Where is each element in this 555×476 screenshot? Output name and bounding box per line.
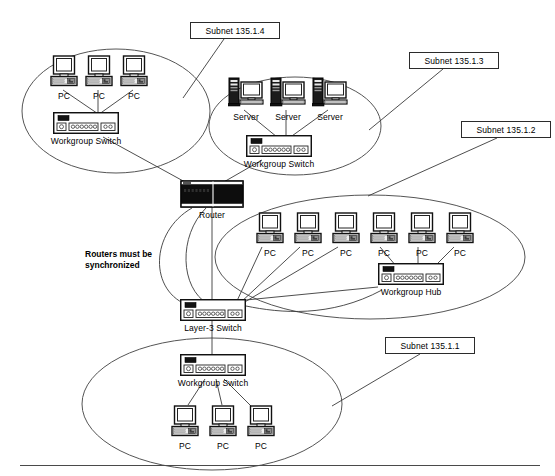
footer-divider	[20, 465, 540, 466]
switch-icon-sw-b[interactable]	[246, 135, 312, 161]
device-label-pc-a3: PC	[128, 91, 140, 101]
switch-icon-sw-a[interactable]	[53, 112, 119, 138]
link-subnet-135-1-1-to-cloud-subnet-135-1-1	[332, 354, 420, 406]
server-icon-srv-b2[interactable]	[270, 76, 306, 114]
device-label-srv-b3: Server	[317, 112, 343, 122]
device-label-pc-c1: PC	[264, 248, 276, 258]
pc-icon-pc-d1[interactable]	[171, 405, 199, 443]
device-label-sw-a: Workgroup Switch	[51, 136, 121, 146]
switch-icon-l3sw[interactable]	[180, 299, 246, 325]
subnet-135-1-4-label[interactable]: Subnet 135.1.4	[190, 22, 280, 39]
device-label-pc-d1: PC	[179, 441, 191, 451]
device-label-pc-c5: PC	[416, 248, 428, 258]
routers-sync-note: Routers must be synchronized	[85, 249, 152, 271]
router-icon-router[interactable]	[180, 180, 244, 212]
link-router-to-ring-inner	[186, 208, 208, 304]
pc-icon-pc-c5[interactable]	[408, 212, 436, 250]
server-icon-srv-b1[interactable]	[228, 76, 264, 114]
pc-icon-pc-c2[interactable]	[294, 212, 322, 250]
subnet-135-1-3-label[interactable]: Subnet 135.1.3	[409, 52, 499, 69]
subnet-135-1-2-label[interactable]: Subnet 135.1.2	[461, 121, 551, 138]
device-label-pc-d3: PC	[255, 441, 267, 451]
device-label-hub-c: Workgroup Hub	[381, 287, 442, 297]
switch-icon-sw-d[interactable]	[180, 354, 246, 380]
pc-icon-pc-a1[interactable]	[50, 55, 78, 93]
pc-icon-pc-c3[interactable]	[332, 212, 360, 250]
hub-icon-hub-c[interactable]	[378, 263, 444, 289]
device-label-pc-d2: PC	[217, 441, 229, 451]
device-label-router: Router	[199, 210, 225, 220]
pc-icon-pc-c1[interactable]	[256, 212, 284, 250]
pc-icon-pc-c6[interactable]	[446, 212, 474, 250]
link-subnet-135-1-2-to-cloud-subnet-135-1-2	[368, 138, 497, 196]
link-router-to-ring-left	[159, 208, 192, 306]
pc-icon-pc-a2[interactable]	[85, 55, 113, 93]
device-label-srv-b1: Server	[233, 112, 259, 122]
subnet-135-1-1-label[interactable]: Subnet 135.1.1	[385, 337, 475, 354]
pc-icon-pc-c4[interactable]	[370, 212, 398, 250]
device-label-sw-d: Workgroup Switch	[178, 378, 248, 388]
device-label-pc-a2: PC	[93, 91, 105, 101]
device-label-srv-b2: Server	[275, 112, 301, 122]
device-label-pc-c2: PC	[302, 248, 314, 258]
device-label-sw-b: Workgroup Switch	[244, 159, 314, 169]
pc-icon-pc-d3[interactable]	[247, 405, 275, 443]
device-label-pc-c3: PC	[340, 248, 352, 258]
pc-icon-pc-a3[interactable]	[120, 55, 148, 93]
device-label-pc-c6: PC	[454, 248, 466, 258]
device-label-pc-c4: PC	[378, 248, 390, 258]
device-label-pc-a1: PC	[58, 91, 70, 101]
link-hub-c-to-l3sw	[246, 287, 378, 300]
device-label-l3sw: Layer-3 Switch	[184, 323, 242, 333]
pc-icon-pc-d2[interactable]	[209, 405, 237, 443]
network-diagram-canvas: Routers must be synchronized Subnet 135.…	[0, 0, 555, 476]
server-icon-srv-b3[interactable]	[312, 76, 348, 114]
link-subnet-135-1-3-to-cloud-subnet-135-1-3	[369, 69, 443, 130]
